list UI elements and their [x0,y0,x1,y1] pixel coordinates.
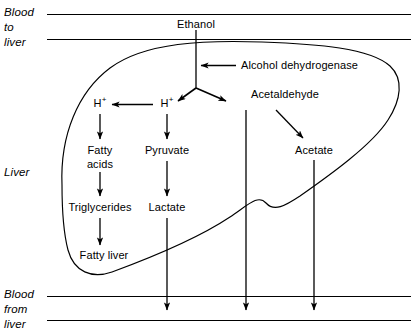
node-proton-right: H+ [161,97,174,110]
node-ethanol: Ethanol [177,18,215,31]
node-alcohol-dehydrogenase: Alcohol dehydrogenase [241,59,358,72]
ethanol-metabolism-diagram: Blood to liver Blood from liver Liver Et… [0,0,411,332]
node-fatty-acids-line1: Fatty [88,144,113,157]
node-triglycerides: Triglycerides [68,201,131,214]
diagram-vector-layer [0,0,411,332]
node-lactate: Lactate [149,201,186,214]
blood-to-liver-label-line2: to [4,21,14,34]
blood-to-liver-label-line1: Blood [4,6,34,19]
proton-right-symbol: H [161,97,169,109]
node-pyruvate: Pyruvate [145,144,189,157]
branch-to-acetaldehyde-arrow [196,88,226,101]
branch-to-proton-arrow [178,88,196,101]
blood-from-liver-label-line3: liver [4,318,26,331]
blood-from-liver-label-line2: from [4,303,27,316]
blood-to-liver-vessel [47,15,411,40]
proton-right-charge: + [169,95,174,104]
liver-organ-label: Liver [4,166,29,179]
node-proton-left: H+ [94,97,107,110]
acetaldehyde-to-acetate-arrow [276,110,303,138]
proton-left-charge: + [102,95,107,104]
proton-left-symbol: H [94,97,102,109]
node-acetate: Acetate [295,144,333,157]
blood-to-liver-label-line3: liver [4,36,26,49]
node-fatty-acids-line2: acids [87,158,113,171]
node-fatty-liver: Fatty liver [80,249,129,262]
blood-from-liver-label-line1: Blood [4,288,34,301]
blood-from-liver-vessel [47,297,411,321]
node-acetaldehyde: Acetaldehyde [251,88,319,101]
